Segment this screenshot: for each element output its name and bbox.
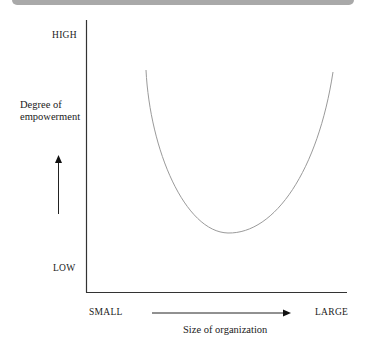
- up-arrow-icon: [55, 155, 62, 214]
- diagram-canvas: [0, 0, 366, 349]
- y-low-label: LOW: [53, 262, 76, 275]
- y-high-label: HIGH: [52, 29, 77, 42]
- y-axis-title-line2: empowerment: [20, 110, 80, 123]
- u-shaped-curve: [146, 70, 333, 233]
- right-arrow-icon: [152, 310, 291, 317]
- x-axis-title: Size of organization: [183, 323, 267, 336]
- x-small-label: SMALL: [89, 306, 123, 319]
- x-large-label: LARGE: [315, 306, 348, 319]
